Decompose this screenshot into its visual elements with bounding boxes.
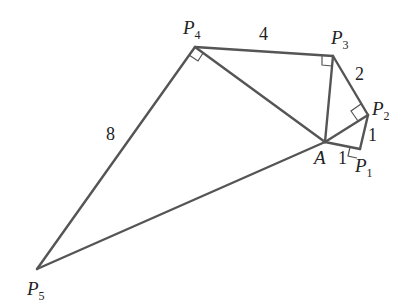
right-angle-marker-p2 — [351, 104, 361, 121]
segment-a-p5 — [37, 142, 325, 269]
segment-p4-p5 — [37, 47, 195, 269]
geometry-diagram: A P1 P2 P3 P4 P5 1 1 2 4 8 — [0, 0, 410, 305]
segment-a-p4 — [195, 47, 325, 142]
length-label-a-p1: 1 — [338, 148, 347, 168]
label-p2: P2 — [371, 98, 390, 123]
length-label-p1-p2: 1 — [368, 125, 377, 145]
label-p3: P3 — [330, 27, 349, 52]
length-label-p4-p5: 8 — [106, 124, 115, 144]
label-p1: P1 — [354, 155, 373, 180]
label-a: A — [312, 147, 326, 168]
length-label-p2-p3: 2 — [355, 64, 364, 84]
length-label-p3-p4: 4 — [259, 24, 268, 44]
segment-a-p3 — [325, 56, 333, 142]
segment-p3-p4 — [195, 47, 333, 56]
label-p4: P4 — [182, 17, 201, 42]
label-p5: P5 — [26, 278, 45, 303]
